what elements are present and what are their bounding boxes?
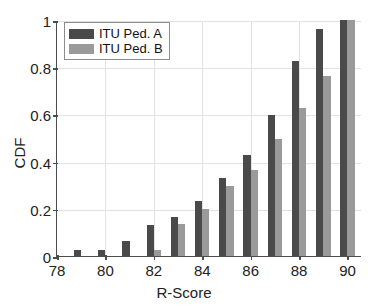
chart-legend: ITU Ped. A ITU Ped. B <box>64 22 170 60</box>
legend-label-series-a: ITU Ped. A <box>99 26 162 41</box>
x-tick-mark <box>105 255 107 260</box>
bar <box>316 29 323 256</box>
bar <box>171 217 178 256</box>
bar <box>347 20 354 256</box>
y-tick-label: 0.8 <box>30 60 51 77</box>
x-tick-label: 90 <box>339 262 356 279</box>
x-tick-mark <box>57 255 59 260</box>
bar <box>219 178 226 256</box>
x-tick-label: 86 <box>242 262 259 279</box>
y-tick-mark <box>53 68 58 70</box>
bar <box>226 186 233 256</box>
x-tick-label: 80 <box>97 262 114 279</box>
y-tick-label: 1 <box>43 13 51 30</box>
bar <box>154 250 161 256</box>
bar <box>122 241 129 256</box>
bar <box>340 20 347 256</box>
bar <box>202 209 209 256</box>
y-axis-title: CDF <box>11 137 28 168</box>
bar <box>251 170 258 256</box>
bar <box>178 224 185 256</box>
x-axis-title: R-Score <box>0 284 368 301</box>
y-tick-mark <box>53 115 58 117</box>
plot-area: 00.20.40.60.81 78808284868890 ITU Ped. A… <box>56 21 361 257</box>
bar <box>147 225 154 256</box>
x-tick-label: 88 <box>291 262 308 279</box>
legend-swatch-icon-series-b <box>69 44 94 54</box>
bar <box>275 139 282 256</box>
cdf-bar-chart-figure: CDF R-Score 00.20.40.60.81 7880828486889… <box>0 0 368 305</box>
bar <box>292 61 299 256</box>
legend-label-series-b: ITU Ped. B <box>99 41 163 56</box>
bar <box>299 108 306 256</box>
x-tick-label: 78 <box>49 262 66 279</box>
legend-item-series-a: ITU Ped. A <box>69 26 163 41</box>
x-tick-label: 82 <box>145 262 162 279</box>
bar <box>98 250 105 256</box>
y-tick-mark <box>53 21 58 23</box>
bar <box>195 201 202 256</box>
bar <box>323 76 330 256</box>
legend-item-series-b: ITU Ped. B <box>69 41 163 56</box>
y-tick-mark <box>53 163 58 165</box>
bar <box>243 155 250 256</box>
bar <box>268 115 275 256</box>
y-tick-label: 0.4 <box>30 154 51 171</box>
x-tick-label: 84 <box>194 262 211 279</box>
bar <box>74 250 81 256</box>
y-tick-label: 0.2 <box>30 201 51 218</box>
y-tick-label: 0.6 <box>30 107 51 124</box>
y-tick-mark <box>53 210 58 212</box>
legend-swatch-icon-series-a <box>69 29 94 39</box>
